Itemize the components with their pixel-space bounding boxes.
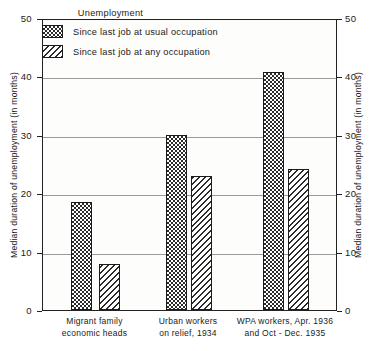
y-axis-title-right: Median duration of unemployment (in mont… xyxy=(353,65,363,265)
x-category-label-3-line-2: and Oct - Dec. 1935 xyxy=(215,328,355,340)
y-tick-mark-right-20 xyxy=(337,194,342,195)
bar-group3-series2 xyxy=(288,169,309,310)
bar-group1-series1 xyxy=(71,202,92,310)
legend-item-usual-occupation: Since last job at usual occupation xyxy=(18,25,248,38)
bar-group3-series1 xyxy=(263,72,284,310)
legend-label-usual-occupation: Since last job at usual occupation xyxy=(73,27,218,37)
y-tick-mark-right-30 xyxy=(337,136,342,137)
y-tick-mark-right-40 xyxy=(337,77,342,78)
chart-container: Median duration of unemployment (in mont… xyxy=(0,0,372,351)
y-tick-label-left-20: 20 xyxy=(8,188,32,199)
legend-label-any-occupation: Since last job at any occupation xyxy=(73,47,210,57)
gridline-40 xyxy=(43,78,336,79)
y-tick-mark-right-50 xyxy=(337,19,342,20)
y-tick-label-right-10: 10 xyxy=(345,247,369,258)
bar-group2-series1 xyxy=(166,135,187,310)
y-axis-title-left: Median duration of unemployment (in mont… xyxy=(9,65,19,265)
legend: Unemployment Since last job at usual occ… xyxy=(18,8,248,65)
legend-swatch-hatch-icon xyxy=(42,45,63,58)
y-tick-mark-right-0 xyxy=(337,311,342,312)
bar-group2-series2 xyxy=(191,176,212,310)
y-tick-label-right-0: 0 xyxy=(345,305,369,316)
y-tick-label-right-20: 20 xyxy=(345,188,369,199)
bar-group1-series2 xyxy=(99,264,120,310)
y-tick-label-left-10: 10 xyxy=(8,247,32,258)
x-category-label-3: WPA workers, Apr. 1936and Oct - Dec. 193… xyxy=(215,316,355,339)
y-tick-label-left-0: 0 xyxy=(8,305,32,316)
y-tick-label-right-40: 40 xyxy=(345,71,369,82)
y-tick-label-left-30: 30 xyxy=(8,130,32,141)
y-tick-label-right-30: 30 xyxy=(345,130,369,141)
y-tick-label-right-50: 50 xyxy=(345,13,369,24)
legend-title: Unemployment xyxy=(18,8,203,18)
legend-item-any-occupation: Since last job at any occupation xyxy=(18,45,248,58)
y-tick-label-left-40: 40 xyxy=(8,71,32,82)
legend-swatch-checkerboard-icon xyxy=(42,25,63,38)
y-tick-mark-right-10 xyxy=(337,253,342,254)
gridline-30 xyxy=(43,137,336,138)
y-tick-mark-left-0 xyxy=(37,311,42,312)
x-category-label-3-line-1: WPA workers, Apr. 1936 xyxy=(215,316,355,328)
